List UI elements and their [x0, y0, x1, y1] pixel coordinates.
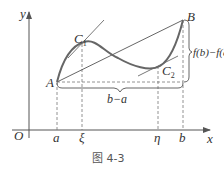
- point-c1-label: C1: [74, 31, 87, 48]
- brace-b-minus-a: [57, 83, 183, 92]
- tick-eta: η: [154, 130, 160, 145]
- tick-b: b: [179, 130, 186, 145]
- x-axis-label: x: [206, 131, 213, 146]
- tick-a: a: [53, 130, 60, 145]
- span-b-minus-a-label: b−a: [107, 92, 127, 106]
- span-fb-minus-fa-label: f(b)−f(a): [193, 46, 224, 59]
- tick-xi: ξ: [79, 130, 85, 145]
- point-c2-label: C2: [162, 63, 175, 80]
- origin-label: O: [14, 128, 24, 143]
- figure-caption: 图 4-3: [92, 152, 124, 165]
- y-axis-label: y: [18, 6, 26, 21]
- mean-value-theorem-diagram: y x O A B C1 C2 a ξ η b b−a f(b)−f(a) 图 …: [0, 0, 224, 177]
- point-a-label: A: [45, 75, 54, 90]
- point-b-label: B: [187, 9, 195, 24]
- brace-fb-minus-fa: [184, 20, 192, 82]
